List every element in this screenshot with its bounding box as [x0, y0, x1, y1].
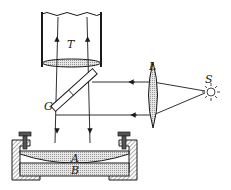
newtons-rings-diagram: T G L S A B — [0, 0, 231, 190]
label-G: G — [44, 100, 53, 113]
glass-plate — [51, 69, 97, 112]
label-T: T — [67, 38, 76, 51]
objective-lens — [43, 59, 101, 67]
label-B: B — [70, 164, 79, 177]
label-L: L — [148, 60, 156, 73]
label-S: S — [205, 73, 213, 86]
